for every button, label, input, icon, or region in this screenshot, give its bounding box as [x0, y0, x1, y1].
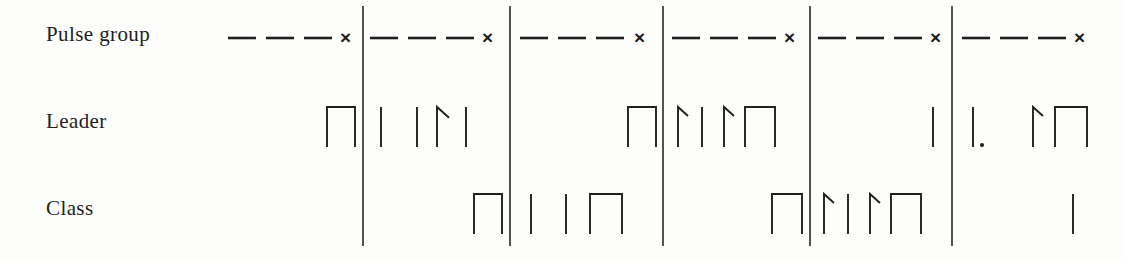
pulse-group-terminator-4: ×: [784, 28, 795, 47]
leader-pulses-4: [678, 107, 775, 147]
segment-1: [228, 38, 355, 147]
class-3-square-3: [590, 194, 622, 234]
leader-3-square-1: [628, 107, 656, 147]
class-pulses-3: [531, 194, 622, 234]
leader-pulses-6: [973, 107, 1087, 147]
segment-4: [672, 38, 802, 234]
class-5-square-4: [891, 194, 921, 234]
leader-6-bar-dot-1: [973, 107, 984, 147]
pulse-group-terminator-2: ×: [482, 28, 493, 47]
pulse-group-terminator-3: ×: [634, 28, 645, 47]
class-pulses-5: [824, 194, 921, 234]
leader-6-square-3: [1055, 107, 1087, 147]
leader-4-square-4: [745, 107, 775, 147]
segment-5: [818, 38, 933, 234]
leader-pulses-3: [628, 107, 656, 147]
pulse-timing-figure: Pulse group Leader Class ××××××: [0, 0, 1126, 262]
leader-4-hook-3: [724, 107, 734, 147]
segment-6: [962, 38, 1087, 234]
timing-diagram-canvas: [0, 0, 1126, 262]
class-4-square-1: [772, 194, 802, 234]
segment-3: [520, 38, 656, 234]
class-pulses-2: [474, 194, 502, 234]
class-pulses-4: [772, 194, 802, 234]
leader-4-hook-1: [678, 107, 688, 147]
pulse-group-terminator-5: ×: [930, 28, 941, 47]
pulse-group-terminator-1: ×: [340, 28, 351, 47]
segment-2: [370, 38, 502, 234]
class-5-hook-1: [824, 194, 834, 234]
leader-6-dot-1: [980, 143, 984, 147]
pulse-group-terminator-6: ×: [1074, 28, 1085, 47]
class-5-hook-3: [870, 194, 880, 234]
class-2-square-1: [474, 194, 502, 234]
leader-6-hook-2: [1033, 107, 1043, 147]
leader-1-square-1: [327, 107, 355, 147]
leader-2-hook-3: [437, 107, 449, 147]
leader-pulses-1: [327, 107, 355, 147]
leader-pulses-2: [381, 107, 466, 147]
